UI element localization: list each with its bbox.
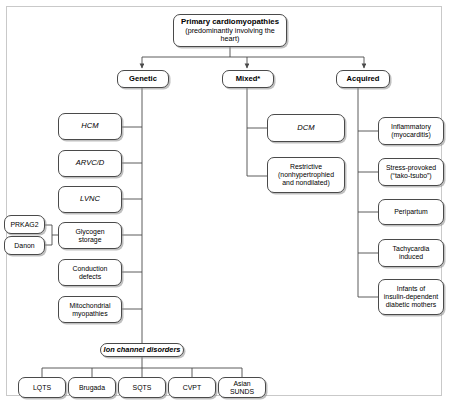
node-label: Glycogen storage bbox=[75, 228, 104, 243]
node-ion-lqts: LQTS bbox=[18, 377, 66, 398]
node-ion-sqts: SQTS bbox=[118, 377, 166, 398]
node-genetic-hcm: HCM bbox=[58, 113, 122, 140]
node-label: Ion channel disorders bbox=[104, 346, 181, 354]
node-label: Inflammatory (myocarditis) bbox=[391, 123, 431, 138]
node-label: SQTS bbox=[133, 384, 152, 392]
node-label: Infants of insulin-dependent diabetic mo… bbox=[384, 285, 438, 308]
node-acquired-stress-provoked: Stress-provoked (“tako-tsubo”) bbox=[378, 158, 444, 186]
node-label: Peripartum bbox=[394, 208, 428, 216]
node-label: Restrictive (nonhypertrophied and nondil… bbox=[278, 163, 334, 186]
node-label: Tachycardia induced bbox=[393, 245, 430, 260]
node-label: ARVC/D bbox=[76, 159, 105, 168]
node-category-acquired: Acquired bbox=[336, 70, 390, 88]
node-label: Asian SUNDS bbox=[230, 380, 254, 395]
category-label: Acquired bbox=[347, 75, 380, 84]
node-acquired-tachycardia-induced: Tachycardia induced bbox=[378, 239, 444, 267]
node-label: DCM bbox=[297, 124, 314, 133]
node-primary-cardiomyopathies: Primary cardiomyopathies (predominantly … bbox=[173, 14, 287, 47]
node-mixed-dcm: DCM bbox=[267, 114, 345, 142]
node-label: Conduction defects bbox=[73, 265, 108, 280]
node-genetic-conduction-defects: Conduction defects bbox=[58, 259, 122, 286]
node-glycogen-subtype-prkag2: PRKAG2 bbox=[4, 215, 45, 234]
node-mixed-restrictive: Restrictive (nonhypertrophied and nondil… bbox=[267, 157, 345, 193]
node-label: LQTS bbox=[33, 384, 51, 392]
node-label: Brugada bbox=[79, 384, 105, 392]
node-acquired-infants-diabetic-mothers: Infants of insulin-dependent diabetic mo… bbox=[378, 279, 444, 315]
node-ion-cvpt: CVPT bbox=[168, 377, 216, 398]
category-label: Genetic bbox=[129, 75, 157, 84]
node-label: Mitochondrial myopathies bbox=[70, 302, 111, 317]
node-label: PRKAG2 bbox=[11, 221, 39, 229]
node-label: HCM bbox=[81, 122, 98, 131]
node-genetic-mitochondrial-myopathies: Mitochondrial myopathies bbox=[58, 296, 122, 323]
node-label: LVNC bbox=[80, 195, 100, 204]
node-genetic-lvnc: LVNC bbox=[58, 186, 122, 213]
node-category-genetic: Genetic bbox=[117, 70, 169, 88]
node-label: Stress-provoked (“tako-tsubo”) bbox=[386, 164, 436, 179]
node-acquired-peripartum: Peripartum bbox=[378, 199, 444, 225]
node-ion-channel-disorders: Ion channel disorders bbox=[100, 343, 184, 357]
node-label: Danon bbox=[14, 242, 34, 250]
diagram-canvas: Primary cardiomyopathies (predominantly … bbox=[0, 0, 450, 409]
category-label: Mixed* bbox=[236, 75, 260, 84]
node-ion-brugada: Brugada bbox=[68, 377, 116, 398]
node-category-mixed: Mixed* bbox=[222, 70, 274, 88]
node-glycogen-subtype-danon: Danon bbox=[4, 236, 45, 255]
node-genetic-arvcd: ARVC/D bbox=[58, 150, 122, 177]
node-acquired-inflammatory: Inflammatory (myocarditis) bbox=[378, 117, 444, 145]
node-genetic-glycogen-storage: Glycogen storage bbox=[58, 222, 122, 249]
node-ion-asian-sunds: Asian SUNDS bbox=[218, 377, 266, 398]
root-subtitle: (predominantly involving the heart) bbox=[176, 27, 284, 43]
node-label: CVPT bbox=[183, 384, 201, 392]
